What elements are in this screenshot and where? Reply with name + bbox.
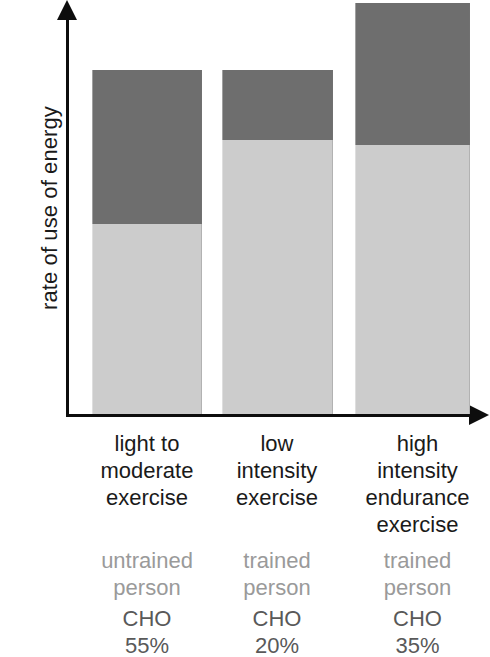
stacked-bar-low-intensity: [222, 70, 333, 414]
y-axis-line: [66, 14, 69, 417]
person-line: person: [212, 574, 342, 601]
stacked-bar-light-to-moderate: [92, 70, 202, 414]
bar-2-cho-segment: [222, 140, 333, 414]
person-line: person: [345, 574, 490, 601]
category-line: intensity: [345, 457, 490, 484]
person-line: person: [82, 574, 212, 601]
person-line: trained: [345, 547, 490, 574]
cho-value: 20%: [212, 632, 342, 657]
category-label: low intensity exercise: [212, 430, 342, 511]
category-line: low: [212, 430, 342, 457]
category-column-light-to-moderate: light to moderate exercise untrained per…: [82, 430, 212, 511]
person-label: untrained person: [82, 547, 212, 601]
cho-label: CHO 55%: [82, 605, 212, 657]
category-line: intensity: [212, 457, 342, 484]
category-line: endurance: [345, 484, 490, 511]
cho-label: CHO 35%: [345, 605, 490, 657]
chart-plot-area: rate of use of energy: [0, 0, 490, 430]
bar-1-cho-segment: [92, 224, 202, 414]
cho-value: 35%: [345, 632, 490, 657]
category-line: exercise: [82, 484, 212, 511]
person-label: trained person: [345, 547, 490, 601]
cho-line: CHO: [345, 605, 490, 632]
category-column-high-intensity-endurance: high intensity endurance exercise traine…: [345, 430, 490, 538]
x-axis-line: [66, 414, 475, 417]
category-line: high: [345, 430, 490, 457]
bar-2-fat-segment: [222, 70, 333, 140]
cho-value: 55%: [82, 632, 212, 657]
cho-label: CHO 20%: [212, 605, 342, 657]
category-label: light to moderate exercise: [82, 430, 212, 511]
cho-line: CHO: [212, 605, 342, 632]
category-line: exercise: [212, 484, 342, 511]
category-column-low-intensity: low intensity exercise trained person CH…: [212, 430, 342, 511]
y-axis-title: rate of use of energy: [37, 58, 63, 358]
cho-line: CHO: [82, 605, 212, 632]
bar-3-cho-segment: [355, 145, 470, 414]
stacked-bar-high-intensity-endurance: [355, 3, 470, 414]
person-line: untrained: [82, 547, 212, 574]
bar-1-fat-segment: [92, 70, 202, 224]
person-label: trained person: [212, 547, 342, 601]
category-line: light to: [82, 430, 212, 457]
arrow-right-icon: [469, 405, 489, 425]
bar-3-fat-segment: [355, 3, 470, 145]
category-line: moderate: [82, 457, 212, 484]
category-line: exercise: [345, 511, 490, 538]
x-axis-category-labels: light to moderate exercise untrained per…: [0, 430, 490, 651]
person-line: trained: [212, 547, 342, 574]
category-label: high intensity endurance exercise: [345, 430, 490, 538]
